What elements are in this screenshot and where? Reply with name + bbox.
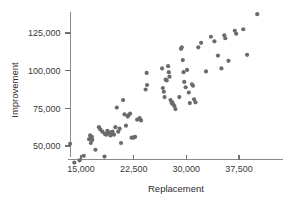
data-point	[212, 39, 216, 43]
data-point	[145, 83, 149, 87]
y-axis-tick-label: 75,000	[33, 104, 61, 114]
x-axis-tick-label: 15,000	[67, 164, 95, 174]
data-point	[121, 98, 125, 102]
data-point	[78, 158, 82, 162]
data-point	[182, 80, 186, 84]
axes-group	[68, 12, 283, 160]
data-point	[241, 27, 245, 31]
data-point	[216, 54, 220, 58]
data-point	[166, 64, 170, 68]
data-point	[124, 124, 128, 128]
data-point	[181, 58, 185, 62]
data-point	[165, 78, 169, 82]
data-point	[245, 53, 249, 57]
data-point	[72, 160, 76, 164]
data-point	[181, 70, 185, 74]
data-point	[177, 95, 181, 99]
data-points-group	[68, 12, 259, 165]
data-point	[160, 66, 164, 70]
data-point	[255, 12, 259, 16]
data-point	[113, 125, 117, 129]
data-point	[90, 138, 94, 142]
data-point	[184, 85, 188, 89]
data-point	[193, 100, 197, 104]
data-point	[188, 101, 192, 105]
data-point	[226, 59, 230, 63]
data-point	[162, 90, 166, 94]
data-point	[133, 135, 137, 139]
scatter-plot-figure: 15,00022,50030,00037,500 50,00075,000100…	[0, 0, 293, 203]
data-point	[144, 87, 148, 91]
data-point	[204, 69, 208, 73]
data-point	[209, 35, 213, 39]
data-point	[234, 32, 238, 36]
data-point	[139, 118, 143, 122]
data-point	[187, 90, 191, 94]
data-point	[82, 154, 86, 158]
data-point	[162, 95, 166, 99]
data-point	[199, 41, 203, 45]
data-point	[145, 71, 149, 75]
y-axis-tick-label: 125,000	[28, 28, 61, 38]
data-point	[167, 75, 171, 79]
data-point	[173, 107, 177, 111]
data-point	[180, 45, 184, 49]
y-axis-tick-label: 50,000	[33, 141, 61, 151]
x-ticks-group: 15,00022,50030,00037,500	[67, 155, 253, 174]
data-point	[128, 112, 132, 116]
x-axis-tick-label: 30,000	[173, 164, 201, 174]
data-point	[191, 84, 195, 88]
data-point	[219, 66, 223, 70]
x-axis-tick-label: 37,500	[225, 164, 253, 174]
y-axis-title: Improvement	[9, 62, 20, 118]
data-point	[102, 154, 106, 158]
data-point	[112, 133, 116, 137]
data-point	[68, 142, 72, 146]
y-axis-tick-label: 100,000	[28, 66, 61, 76]
x-axis-title: Replacement	[148, 183, 204, 194]
data-point	[93, 148, 97, 152]
data-point	[119, 141, 123, 145]
data-point	[118, 127, 122, 131]
data-point	[115, 105, 119, 109]
x-axis-tick-label: 22,500	[120, 164, 148, 174]
data-point	[185, 68, 189, 72]
data-point	[167, 70, 171, 74]
y-ticks-group: 50,00075,000100,000125,000	[28, 28, 71, 151]
plot-area: 15,00022,50030,00037,500 50,00075,000100…	[0, 0, 293, 203]
data-point	[196, 45, 200, 49]
data-point	[161, 86, 165, 90]
data-point	[223, 36, 227, 40]
